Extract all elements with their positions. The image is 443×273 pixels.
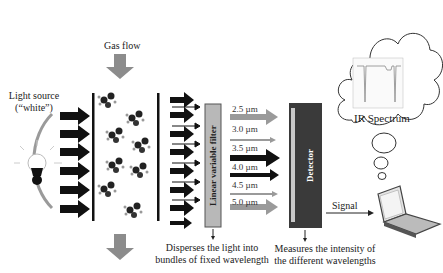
gas-flow-in-arrow bbox=[106, 54, 134, 79]
ir-spectrum-label: IR Spectrum bbox=[354, 113, 410, 124]
light-bulb-icon bbox=[14, 140, 62, 185]
gas-cell-window-left bbox=[92, 93, 95, 221]
filter-caption-line2: bundles of fixed wavelength bbox=[146, 254, 278, 265]
detector-caption-line1: Measures the intensity of bbox=[272, 243, 378, 254]
gas-flow-label: Gas flow bbox=[104, 40, 140, 51]
light-input-arrows bbox=[60, 107, 90, 218]
wavelength-label-3.5: 3.5 µm bbox=[232, 143, 258, 154]
gas-cell-window-right bbox=[157, 93, 160, 221]
gas-molecules-icon bbox=[98, 93, 151, 219]
transmitted-arrows bbox=[170, 92, 194, 229]
filter-caption-line1: Disperses the light into bbox=[152, 242, 272, 253]
diagram-graphics bbox=[0, 0, 443, 273]
filter-label: Linear variable filter bbox=[205, 104, 221, 227]
wavelength-label-5.0: 5.0 µm bbox=[232, 197, 258, 208]
wavelength-label-3.0: 3.0 µm bbox=[232, 124, 258, 135]
signal-label: Signal bbox=[332, 200, 358, 211]
ir-spectrum-plot-icon bbox=[353, 58, 403, 108]
wavelength-label-4.5: 4.5 µm bbox=[232, 180, 258, 191]
wavelength-label-4.0: 4.0 µm bbox=[232, 162, 258, 173]
detector-caption-line2: the different wavelengths bbox=[272, 255, 378, 266]
detector-label: Detector bbox=[298, 103, 322, 228]
gas-flow-out-arrow bbox=[106, 234, 134, 260]
laptop-icon bbox=[378, 186, 440, 238]
wavelength-label-2.5: 2.5 µm bbox=[232, 104, 258, 115]
light-source-sub-label: (“white”) bbox=[6, 102, 62, 113]
light-source-label: Light source bbox=[6, 90, 62, 101]
